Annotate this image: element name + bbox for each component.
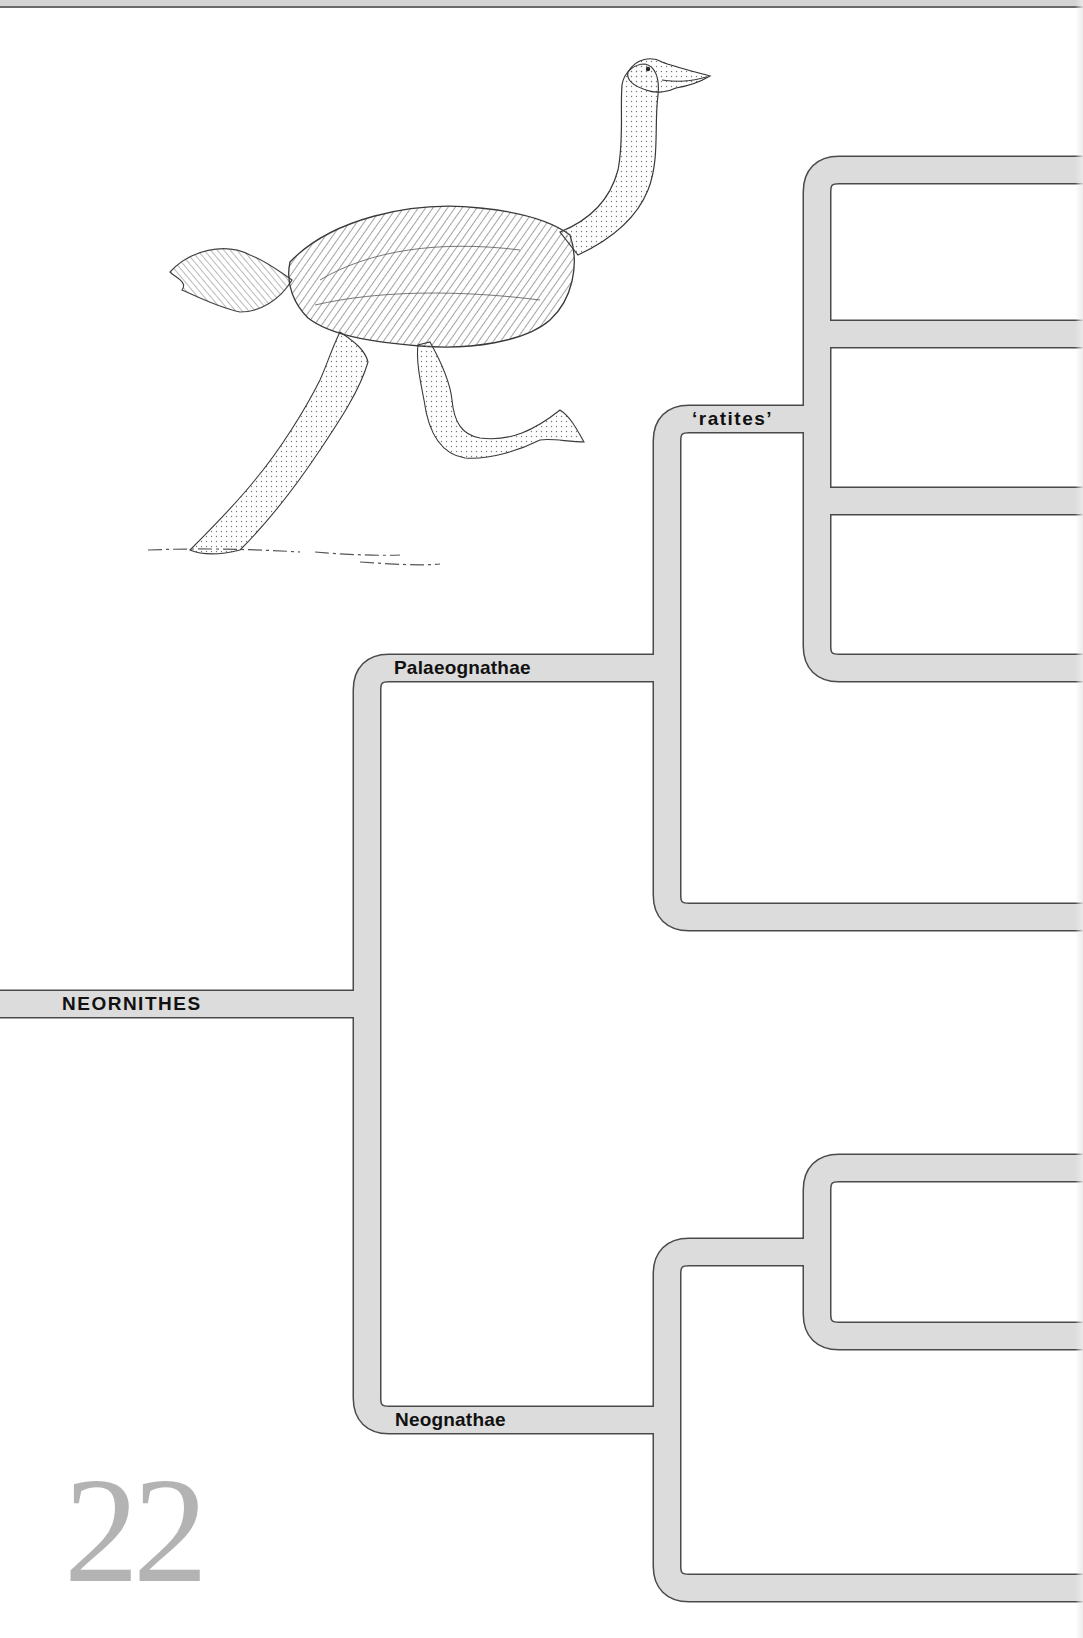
page-gutter-shadow (1075, 0, 1083, 1638)
bird-illustration-icon (140, 50, 760, 610)
clade-label-neornithes: NEORNITHES (62, 994, 202, 1013)
page-number: 22 (64, 1455, 202, 1605)
clade-label-neognathae: Neognathae (395, 1410, 506, 1429)
clade-label-palaeognathae: Palaeognathae (394, 658, 531, 677)
clade-label-ratites: ‘ratites’ (692, 409, 773, 428)
